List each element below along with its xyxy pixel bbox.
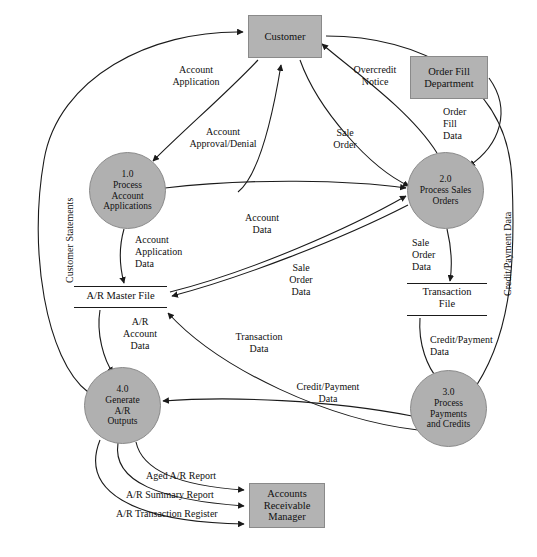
flow-label-sale-order-data-center: Sale Order Data <box>289 262 312 298</box>
flow-label-credit-payment-data-center: Credit/Payment Data <box>297 381 360 405</box>
data-store-ar-master-file[interactable]: A/R Master File <box>74 286 167 309</box>
external-entity-customer-label: Customer <box>265 31 306 43</box>
flow-label-credit-payment-data-right: Credit/Payment Data <box>430 334 493 358</box>
flow-label-order-fill-data: Order Fill Data <box>443 106 466 142</box>
connector-transaction-data <box>168 313 418 430</box>
flow-label-sale-order-data-right: Sale Order Data <box>412 237 435 273</box>
flow-label-ar-account-data: A/R Account Data <box>123 316 157 352</box>
external-entity-accounts-receivable-manager[interactable]: Accounts Receivable Manager <box>249 483 325 528</box>
flow-label-transaction-data: Transaction Data <box>236 331 283 355</box>
process-1-0-process-account-applications[interactable]: 1.0 Process Account Applications <box>89 152 166 229</box>
data-store-transaction-file-label: Transaction File <box>407 286 487 310</box>
process-1-0-label: 1.0 Process Account Applications <box>103 169 152 212</box>
data-store-transaction-file[interactable]: Transaction File <box>407 283 487 317</box>
process-4-0-label: 4.0 Generate A/R Outputs <box>105 384 139 427</box>
flow-label-sale-order: Sale Order <box>333 127 356 151</box>
data-flow-diagram: Customer Order Fill Department Accounts … <box>0 0 537 557</box>
flow-label-account-application-data: Account Application Data <box>135 234 182 270</box>
connector-ar-account-data <box>99 310 113 373</box>
external-entity-order-fill-department[interactable]: Order Fill Department <box>410 56 488 99</box>
connector-account-flow-1to2 <box>165 181 406 188</box>
flow-label-ar-transaction-register: A/R Transaction Register <box>116 508 218 520</box>
flow-label-account-data: Account Data <box>245 212 279 236</box>
external-entity-accounts-receivable-manager-label: Accounts Receivable Manager <box>264 488 311 523</box>
process-3-0-label: 3.0 Process Payments and Credits <box>427 387 471 430</box>
process-2-0-label: 2.0 Process Sales Orders <box>420 174 471 206</box>
connector-aged-ar-report <box>136 442 244 490</box>
process-3-0-process-payments-and-credits[interactable]: 3.0 Process Payments and Credits <box>410 370 487 447</box>
process-4-0-generate-ar-outputs[interactable]: 4.0 Generate A/R Outputs <box>84 367 161 444</box>
data-store-ar-master-file-label: A/R Master File <box>74 290 167 302</box>
connector-sale-order-data-right <box>447 229 451 281</box>
connector-account-application-data <box>120 229 124 283</box>
connector-credit-payment-data-center <box>163 399 412 416</box>
connector-account-data <box>170 196 406 292</box>
data-store-ar-master-file-top-rule <box>74 286 167 287</box>
external-entity-customer[interactable]: Customer <box>248 15 322 58</box>
flow-label-ar-summary-report: A/R Summary Report <box>126 489 214 501</box>
external-entity-order-fill-department-label: Order Fill Department <box>424 66 474 90</box>
data-store-transaction-file-top-rule <box>407 283 487 284</box>
flow-label-aged-ar-report: Aged A/R Report <box>146 470 216 482</box>
flow-label-account-application: Account Application <box>172 64 219 88</box>
data-store-transaction-file-bottom-rule <box>407 315 487 316</box>
data-store-ar-master-file-bottom-rule <box>74 307 167 308</box>
flow-label-credit-payment-data-vertical: Credit/Payment Data <box>502 212 513 296</box>
flow-label-overcredit-notice: Overcredit Notice <box>354 64 397 88</box>
flow-label-account-approval-denial: Account Approval/Denial <box>189 126 256 150</box>
process-2-0-process-sales-orders[interactable]: 2.0 Process Sales Orders <box>407 152 484 229</box>
flow-label-customer-statements: Customer Statements <box>64 198 75 283</box>
